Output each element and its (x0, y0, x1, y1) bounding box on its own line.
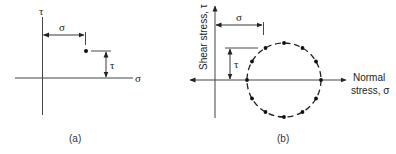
circle-point (314, 60, 318, 64)
panel-a-tau-label: τ (110, 59, 115, 71)
circle-point (301, 46, 305, 50)
circle-point (282, 41, 286, 45)
panel-b-tau-label: τ (234, 58, 239, 70)
panel-a-y-axis-label: τ (39, 5, 44, 17)
stress-diagrams: τ σ σ τ (a) Shear stress, τ Normal stres… (0, 0, 396, 154)
circle-point (282, 115, 286, 119)
panel-b-x-axis-label-line2: stress, σ (351, 85, 390, 96)
panel-b-caption: (b) (277, 133, 289, 144)
circle-point (264, 110, 268, 114)
panel-b-y-axis-label: Shear stress, τ (198, 4, 209, 70)
circle-point (319, 78, 323, 82)
panel-a: τ σ σ τ (a) (15, 5, 141, 144)
panel-a-caption: (a) (69, 133, 81, 144)
circle-point (250, 97, 254, 101)
panel-b-x-axis-label-line1: Normal (353, 72, 385, 83)
panel-a-x-axis-label: σ (135, 72, 141, 84)
panel-b-sigma-label: σ (236, 11, 242, 23)
circle-point (245, 78, 249, 82)
panel-a-stress-point (84, 49, 88, 53)
circle-point (250, 60, 254, 64)
circle-point (301, 110, 305, 114)
circle-point (314, 97, 318, 101)
panel-a-sigma-label: σ (59, 21, 65, 33)
circle-point (264, 46, 268, 50)
panel-b: Shear stress, τ Normal stress, σ σ τ (190, 4, 390, 144)
